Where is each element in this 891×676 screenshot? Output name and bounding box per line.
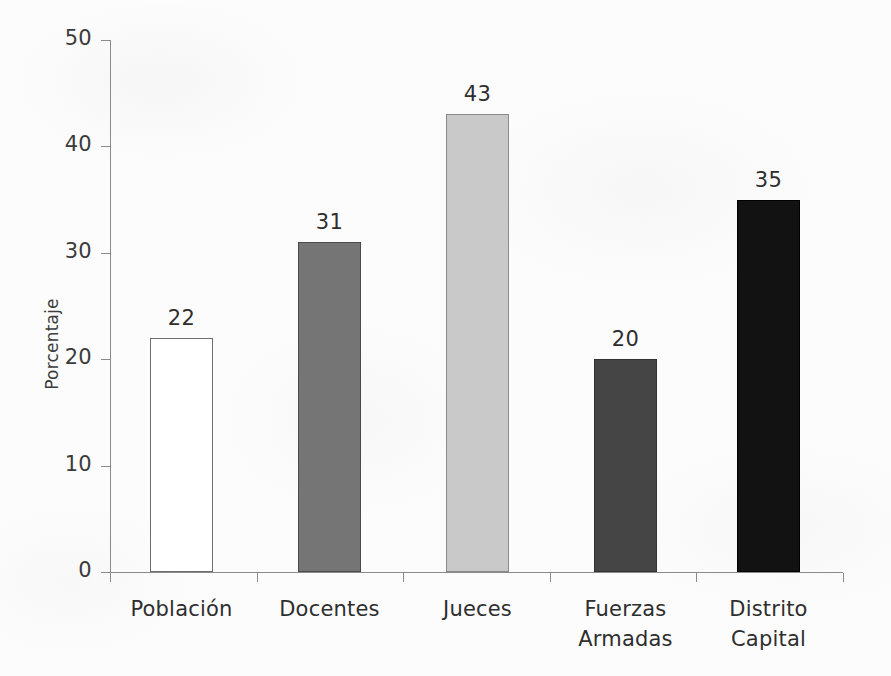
y-axis-tick bbox=[101, 40, 110, 41]
x-axis-tick bbox=[403, 573, 404, 582]
bar-value-label: 43 bbox=[426, 82, 529, 106]
x-axis-tick bbox=[550, 573, 551, 582]
bar bbox=[594, 359, 657, 572]
bar bbox=[298, 242, 361, 572]
x-axis-line bbox=[110, 572, 843, 573]
chart-page: Porcentaje 01020304050 22Población31Doce… bbox=[0, 0, 891, 676]
bar-value-label: 35 bbox=[717, 168, 820, 192]
y-axis-tick bbox=[101, 359, 110, 360]
x-axis-tick bbox=[110, 573, 111, 582]
bar bbox=[446, 114, 509, 572]
x-axis-category-label: Distrito Capital bbox=[694, 594, 844, 654]
y-axis-tick bbox=[101, 572, 110, 573]
y-axis-tick-label: 40 bbox=[30, 132, 92, 156]
y-axis-tick-label: 20 bbox=[30, 345, 92, 369]
bar-value-label: 22 bbox=[130, 306, 233, 330]
x-axis-tick bbox=[843, 573, 844, 582]
x-axis-category-label: Fuerzas Armadas bbox=[551, 594, 701, 654]
y-axis-tick bbox=[101, 146, 110, 147]
x-axis-category-label: Población bbox=[107, 594, 257, 624]
x-axis-category-label: Docentes bbox=[255, 594, 405, 624]
y-axis-tick bbox=[101, 466, 110, 467]
bar-chart: Porcentaje 01020304050 22Población31Doce… bbox=[0, 0, 891, 676]
x-axis-tick bbox=[257, 573, 258, 582]
y-axis-tick bbox=[101, 253, 110, 254]
y-axis-line bbox=[110, 40, 111, 572]
y-axis-tick-label: 0 bbox=[30, 558, 92, 582]
y-axis-tick-label: 30 bbox=[30, 239, 92, 263]
bar bbox=[150, 338, 213, 572]
y-axis-tick-label: 50 bbox=[30, 26, 92, 50]
bar-value-label: 20 bbox=[574, 327, 677, 351]
x-axis-tick bbox=[696, 573, 697, 582]
y-axis-tick-label: 10 bbox=[30, 452, 92, 476]
x-axis-category-label: Jueces bbox=[403, 594, 553, 624]
bar-value-label: 31 bbox=[278, 210, 381, 234]
bar bbox=[737, 200, 800, 572]
y-axis-label: Porcentaje bbox=[42, 298, 62, 390]
